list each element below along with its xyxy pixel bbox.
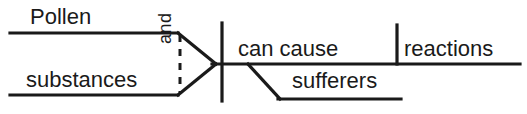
verb-label: can cause [238, 38, 338, 60]
conjunction-upper-slant [178, 33, 216, 64]
direct-object-label: reactions [404, 38, 493, 60]
sentence-diagram: Pollen substances and can cause reaction… [0, 0, 527, 114]
modifier-label: sufferers [292, 70, 377, 92]
subject-upper-label: Pollen [30, 6, 91, 28]
conjunction-lower-slant [178, 64, 216, 95]
conjunction-label: and [156, 12, 174, 44]
modifier-slant [248, 64, 280, 99]
subject-lower-label: substances [26, 69, 137, 91]
